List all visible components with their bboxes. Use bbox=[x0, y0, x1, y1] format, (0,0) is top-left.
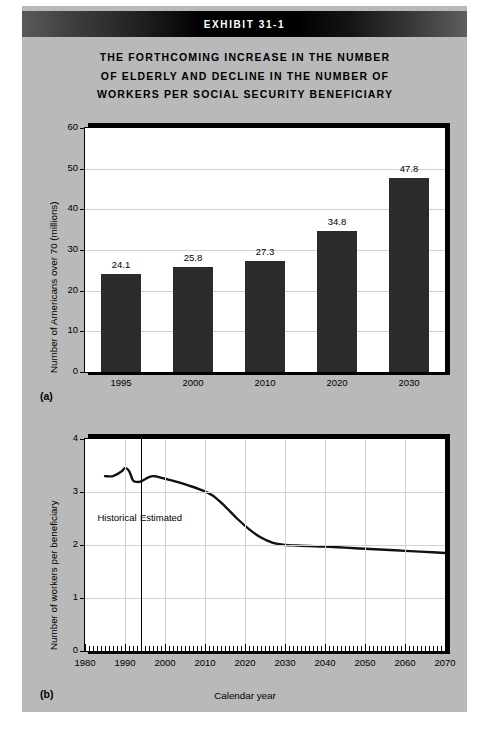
line-chart-minor-tick bbox=[177, 646, 178, 651]
line-chart-minor-tick bbox=[221, 646, 222, 651]
line-chart-minor-tick bbox=[97, 646, 98, 651]
line-chart-minor-tick bbox=[257, 646, 258, 651]
line-chart-minor-tick bbox=[229, 646, 230, 651]
line-chart-minor-tick bbox=[353, 646, 354, 651]
line-chart-minor-tick bbox=[313, 646, 314, 651]
historical-estimated-divider bbox=[141, 439, 142, 651]
line-chart-vertical-gridline bbox=[125, 439, 126, 651]
line-chart-vertical-gridline bbox=[165, 439, 166, 651]
line-chart-gridline bbox=[85, 598, 445, 599]
line-chart-minor-tick bbox=[241, 646, 242, 651]
line-chart-minor-tick bbox=[101, 646, 102, 651]
line-chart-minor-tick bbox=[153, 646, 154, 651]
line-chart-minor-tick bbox=[305, 646, 306, 651]
line-chart-minor-tick bbox=[289, 646, 290, 651]
line-chart-vertical-gridline bbox=[325, 439, 326, 651]
line-chart-minor-tick bbox=[145, 646, 146, 651]
line-chart-minor-tick bbox=[109, 646, 110, 651]
line-chart-gridline bbox=[85, 545, 445, 546]
line-chart-y-tick-label: 4 bbox=[52, 432, 78, 443]
line-chart-panel-b: 0123419801990200020102020203020402050206… bbox=[0, 0, 489, 743]
line-chart-minor-tick bbox=[401, 646, 402, 651]
line-chart-minor-tick bbox=[425, 646, 426, 651]
exhibit-figure: EXHIBIT 31-1 THE FORTHCOMING INCREASE IN… bbox=[0, 0, 489, 743]
line-chart-minor-tick bbox=[165, 644, 166, 651]
line-chart-minor-tick bbox=[317, 646, 318, 651]
line-chart-annotation-estimated: Estimated bbox=[133, 512, 189, 523]
line-chart-minor-tick bbox=[429, 646, 430, 651]
line-chart-minor-tick bbox=[173, 646, 174, 651]
line-chart-minor-tick bbox=[413, 646, 414, 651]
line-chart-minor-tick bbox=[105, 646, 106, 651]
line-chart-minor-tick bbox=[121, 646, 122, 651]
line-chart-y-axis-label: Number of workers per beneficiary bbox=[48, 500, 59, 650]
line-chart-minor-tick bbox=[117, 646, 118, 651]
line-chart-minor-tick bbox=[157, 646, 158, 651]
line-chart-minor-tick bbox=[321, 646, 322, 651]
line-chart-minor-tick bbox=[261, 646, 262, 651]
line-chart-minor-tick bbox=[301, 646, 302, 651]
line-chart-minor-tick bbox=[125, 644, 126, 651]
line-chart-minor-tick bbox=[309, 646, 310, 651]
line-chart-vertical-gridline bbox=[245, 439, 246, 651]
line-chart-minor-tick bbox=[233, 646, 234, 651]
line-chart-minor-tick bbox=[213, 646, 214, 651]
line-chart-vertical-gridline bbox=[205, 439, 206, 651]
line-chart-minor-tick bbox=[397, 646, 398, 651]
line-chart-minor-tick bbox=[441, 646, 442, 651]
line-chart-minor-tick bbox=[361, 646, 362, 651]
line-chart-minor-tick bbox=[337, 646, 338, 651]
line-chart-minor-tick bbox=[201, 646, 202, 651]
line-chart-minor-tick bbox=[149, 646, 150, 651]
line-chart-minor-tick bbox=[293, 646, 294, 651]
line-chart-minor-tick bbox=[433, 646, 434, 651]
line-chart-vertical-gridline bbox=[365, 439, 366, 651]
line-chart-minor-tick bbox=[389, 646, 390, 651]
line-chart-minor-tick bbox=[217, 646, 218, 651]
panel-b-letter: (b) bbox=[40, 688, 53, 700]
line-chart-y-tick-mark bbox=[80, 492, 84, 493]
line-chart-minor-tick bbox=[385, 646, 386, 651]
line-chart-minor-tick bbox=[253, 646, 254, 651]
line-chart-minor-tick bbox=[329, 646, 330, 651]
line-chart-y-tick-mark bbox=[80, 545, 84, 546]
line-chart-minor-tick bbox=[285, 644, 286, 651]
line-chart-minor-tick bbox=[185, 646, 186, 651]
line-chart-minor-tick bbox=[281, 646, 282, 651]
line-chart-minor-tick bbox=[277, 646, 278, 651]
line-chart-minor-tick bbox=[113, 646, 114, 651]
line-chart-minor-tick bbox=[181, 646, 182, 651]
line-chart-minor-tick bbox=[437, 646, 438, 651]
line-chart-minor-tick bbox=[193, 646, 194, 651]
line-chart-plot-area bbox=[84, 438, 446, 652]
line-chart-minor-tick bbox=[209, 646, 210, 651]
line-chart-minor-tick bbox=[417, 646, 418, 651]
line-chart-minor-tick bbox=[421, 646, 422, 651]
line-chart-minor-tick bbox=[245, 644, 246, 651]
line-chart-minor-tick bbox=[297, 646, 298, 651]
line-chart-minor-tick bbox=[365, 644, 366, 651]
line-chart-minor-tick bbox=[341, 646, 342, 651]
line-chart-minor-tick bbox=[333, 646, 334, 651]
line-chart-minor-tick bbox=[205, 644, 206, 651]
line-chart-y-tick-mark bbox=[80, 651, 84, 652]
line-chart-minor-tick bbox=[85, 644, 86, 651]
line-chart-minor-tick bbox=[161, 646, 162, 651]
line-chart-minor-tick bbox=[345, 646, 346, 651]
line-chart-y-tick-mark bbox=[80, 439, 84, 440]
line-chart-minor-tick bbox=[369, 646, 370, 651]
line-chart-minor-tick bbox=[357, 646, 358, 651]
line-chart-y-tick-mark bbox=[80, 598, 84, 599]
line-chart-minor-tick bbox=[349, 646, 350, 651]
line-chart-minor-tick bbox=[129, 646, 130, 651]
line-chart-minor-tick bbox=[393, 646, 394, 651]
line-chart-minor-tick bbox=[269, 646, 270, 651]
line-chart-minor-tick bbox=[137, 646, 138, 651]
line-chart-minor-tick bbox=[249, 646, 250, 651]
line-chart-x-tick-label: 2070 bbox=[415, 657, 475, 668]
line-chart-minor-tick bbox=[325, 644, 326, 651]
line-chart-minor-tick bbox=[133, 646, 134, 651]
line-chart-x-axis-label: Calendar year bbox=[185, 690, 305, 701]
line-chart-vertical-gridline bbox=[405, 439, 406, 651]
line-chart-minor-tick bbox=[377, 646, 378, 651]
